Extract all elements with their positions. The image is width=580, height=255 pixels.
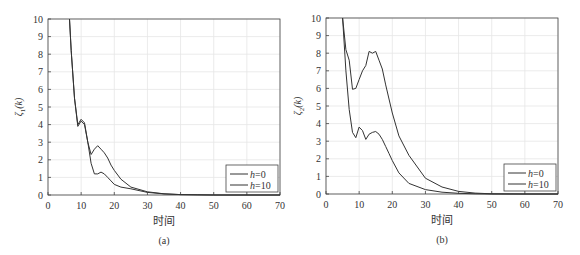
legend: h=0h=10 [226,165,278,192]
x-tick-label: 20 [109,200,119,211]
x-tick-label: 40 [454,199,464,210]
legend-value: =0 [255,169,266,180]
legend: h=0h=10 [504,164,556,191]
y-tick-label: 5 [316,101,321,112]
y-tick-label: 0 [316,189,321,200]
y-tick-label: 7 [38,66,43,77]
x-tick-label: 30 [142,200,152,211]
x-tick-label: 20 [387,199,397,210]
legend-label: h=0 [528,168,544,179]
y-tick-label: 5 [38,102,43,113]
panel-caption: (b) [436,234,448,246]
y-label-argument: (k) [292,96,304,108]
x-axis-label: 时间 [153,215,175,228]
y-tick-label: 9 [38,31,43,42]
x-tick-label: 0 [46,200,51,211]
y-tick-label: 0 [38,190,43,201]
y-label-argument: (k) [13,97,25,109]
panel-caption: (a) [158,235,169,247]
y-tick-label: 8 [316,48,321,59]
y-tick-label: 1 [38,172,43,183]
legend-label: h=0 [250,169,266,180]
y-tick-label: 6 [38,84,43,95]
x-tick-label: 10 [76,200,86,211]
legend-value: =10 [255,180,271,191]
chart-panel-a: 010203040506070012345678910时间(a)ζ1(k)h=0… [13,14,285,248]
x-tick-label: 60 [520,199,530,210]
y-axis-label: ζ2(k) [292,96,306,115]
x-tick-label: 70 [553,199,563,210]
y-tick-label: 9 [316,30,321,41]
y-tick-label: 4 [316,118,321,129]
y-tick-label: 2 [316,153,321,164]
y-tick-label: 1 [316,171,321,182]
x-tick-label: 10 [354,199,364,210]
y-tick-label: 8 [38,49,43,60]
y-tick-label: 2 [38,154,43,165]
x-tick-label: 30 [420,199,430,210]
x-tick-label: 60 [242,200,252,211]
y-tick-label: 3 [38,137,43,148]
legend-label: h=10 [528,179,549,190]
y-tick-label: 6 [316,83,321,94]
x-tick-label: 40 [176,200,186,211]
y-tick-label: 3 [316,136,321,147]
figure: 010203040506070012345678910时间(a)ζ1(k)h=0… [0,0,580,255]
chart-panel-b: 010203040506070012345678910时间(b)ζ2(k)h=0… [292,13,563,247]
legend-label: h=10 [250,180,271,191]
y-tick-label: 7 [316,65,321,76]
y-tick-label: 10 [33,14,43,25]
x-axis-label: 时间 [431,214,453,227]
legend-value: =0 [533,168,544,179]
x-tick-label: 50 [487,199,497,210]
x-tick-label: 50 [209,200,219,211]
x-tick-label: 70 [275,200,285,211]
y-tick-label: 4 [38,119,43,130]
x-tick-label: 0 [324,199,329,210]
y-tick-label: 10 [311,13,321,24]
y-axis-label: ζ1(k) [13,97,27,116]
legend-value: =10 [533,179,549,190]
